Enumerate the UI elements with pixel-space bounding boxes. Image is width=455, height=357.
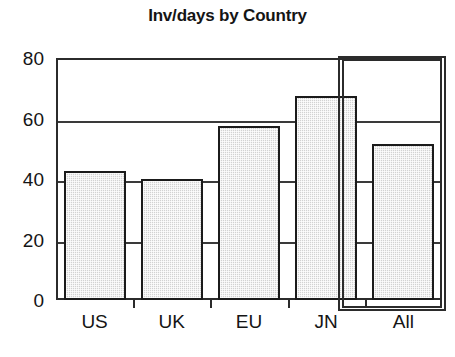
x-tick-1: [210, 300, 212, 308]
x-tick-label-uk: UK: [159, 312, 185, 333]
y-tick-label-80: 80: [23, 49, 44, 68]
x-tick-label-eu: EU: [236, 312, 262, 333]
bar-all: [372, 144, 434, 300]
y-tick-label-40: 40: [23, 170, 44, 189]
bar-uk: [141, 179, 203, 300]
y-tick-label-0: 0: [33, 291, 44, 310]
y-axis: 020406080: [0, 58, 50, 300]
x-axis: USUKEUJNAll: [56, 312, 442, 342]
x-tick-3: [365, 300, 367, 308]
x-tick-label-us: US: [81, 312, 107, 333]
x-tick-2: [288, 300, 290, 308]
y-tick-label-60: 60: [23, 109, 44, 128]
x-tick-0: [133, 300, 135, 308]
x-tick-label-all: All: [393, 312, 414, 333]
bar-jn: [295, 96, 357, 300]
x-axis-ticks: [56, 300, 442, 310]
chart-title: Inv/days by Country: [0, 6, 455, 26]
bar-eu: [218, 126, 280, 300]
bar-chart: Inv/days by Country 020406080 USUKEUJNAl…: [0, 0, 455, 357]
bar-us: [64, 171, 126, 300]
x-tick-label-jn: JN: [315, 312, 338, 333]
bars-group: [56, 58, 442, 300]
y-tick-label-20: 20: [23, 230, 44, 249]
